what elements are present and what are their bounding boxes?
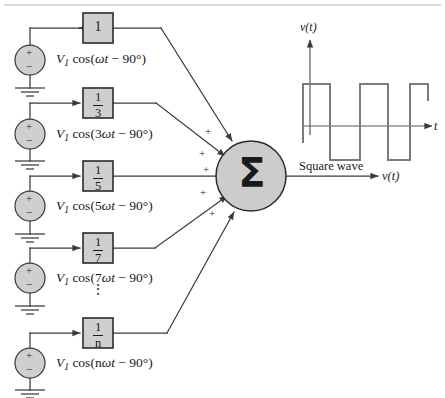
- omega: ω: [102, 198, 112, 213]
- amp: V: [56, 51, 64, 66]
- amp-sub: 1: [64, 58, 69, 68]
- source-5-expression: V1 cos(nωt − 90°): [56, 355, 153, 372]
- source-1-plus: +: [26, 46, 32, 58]
- amp-sub: 1: [64, 133, 69, 143]
- source-3-plus: +: [26, 192, 32, 204]
- gain-box-5-value: 1 n: [83, 321, 113, 351]
- paren-close: ): [148, 270, 153, 285]
- amp: V: [56, 270, 64, 285]
- amp-sub: 1: [64, 277, 69, 287]
- input-plus-4: +: [200, 186, 206, 198]
- paren-close: ): [148, 355, 153, 370]
- gain-3-numerator: 1: [93, 164, 103, 177]
- amp: V: [56, 126, 64, 141]
- time: t: [104, 51, 108, 66]
- source-5-plus: +: [26, 349, 32, 361]
- gain-3-denominator: 5: [93, 180, 103, 193]
- phase: 90: [129, 355, 143, 370]
- time: t: [111, 198, 115, 213]
- time: t: [111, 126, 115, 141]
- source-4-minus: −: [26, 278, 32, 290]
- source-3-expression: V1 cos(5ωt − 90°): [56, 198, 153, 215]
- time: t: [111, 270, 115, 285]
- phase: 90: [129, 270, 143, 285]
- phase: 90: [129, 198, 143, 213]
- gain-5-numerator: 1: [93, 321, 103, 334]
- omega: ω: [102, 355, 112, 370]
- source-1-expression: V1 cos(ωt − 90°): [56, 51, 146, 68]
- square-wave-trace: [303, 84, 428, 160]
- cos: cos: [72, 355, 90, 370]
- amp: V: [56, 198, 64, 213]
- coef: 5: [95, 198, 102, 213]
- source-5-minus: −: [26, 363, 32, 375]
- gain-2-numerator: 1: [93, 91, 103, 104]
- gain-4-numerator: 1: [93, 236, 103, 249]
- source-2-minus: −: [26, 134, 32, 146]
- time: t: [111, 355, 115, 370]
- coef: 3: [95, 126, 102, 141]
- x-axis-label: t: [434, 119, 437, 134]
- paren-close: ): [148, 126, 153, 141]
- input-plus-3: +: [203, 163, 209, 175]
- source-4-plus: +: [26, 264, 32, 276]
- waveform-plot: [303, 40, 432, 160]
- gain-4-denominator: 7: [93, 252, 103, 265]
- sigma-symbol: Σ: [232, 153, 272, 193]
- input-plus-5: +: [209, 207, 215, 219]
- paren-close: ): [141, 51, 146, 66]
- cos: cos: [72, 198, 90, 213]
- coef: n: [95, 355, 102, 370]
- output-signal-label: v(t): [382, 169, 399, 184]
- phase: 90: [129, 126, 143, 141]
- amp-sub: 1: [64, 205, 69, 215]
- source-2-expression: V1 cos(3ωt − 90°): [56, 126, 153, 143]
- omega: ω: [102, 126, 112, 141]
- branch-ellipsis: ⋮: [88, 288, 108, 292]
- minus: −: [118, 270, 126, 285]
- gain-5-denominator: n: [93, 337, 103, 350]
- gain-box-3-value: 1 5: [83, 164, 113, 194]
- y-axis-label: v(t): [300, 20, 317, 35]
- cos: cos: [72, 51, 90, 66]
- source-3-minus: −: [26, 206, 32, 218]
- input-plus-2: +: [199, 147, 205, 159]
- amp-sub: 1: [64, 362, 69, 372]
- minus: −: [118, 126, 126, 141]
- gain-box-4-value: 1 7: [83, 236, 113, 266]
- minus: −: [118, 355, 126, 370]
- branch-1-wires: [30, 28, 232, 141]
- cos: cos: [72, 270, 90, 285]
- gain-2-denominator: 3: [93, 107, 103, 120]
- omega: ω: [95, 51, 105, 66]
- paren-close: ): [148, 198, 153, 213]
- figure-canvas: 1 1 3 1 5 1 7 1 n + − + − + − + −: [0, 0, 445, 398]
- source-2-plus: +: [26, 120, 32, 132]
- minus: −: [118, 198, 126, 213]
- cos: cos: [72, 126, 90, 141]
- gain-box-1-value: 1: [83, 19, 113, 35]
- amp: V: [56, 355, 64, 370]
- source-1-minus: −: [26, 60, 32, 72]
- phase: 90: [123, 51, 137, 66]
- output-label: Square wave: [299, 159, 363, 174]
- gain-box-2-value: 1 3: [83, 91, 113, 121]
- input-plus-1: +: [205, 125, 211, 137]
- minus: −: [112, 51, 120, 66]
